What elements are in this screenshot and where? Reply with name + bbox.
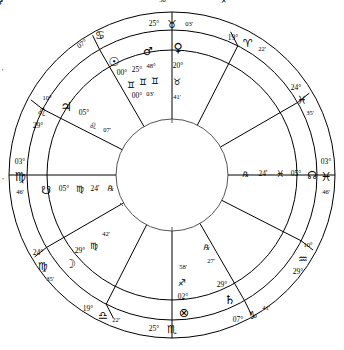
cusp-10-degree: 25°	[149, 20, 160, 28]
sagittarius-icon-fortune: ♐	[178, 279, 186, 288]
south-node-icon: ☋	[41, 185, 51, 196]
aquarius-icon: ♒	[298, 254, 308, 265]
virgo-icon-h2: ♍	[38, 261, 48, 272]
moon-degree: 29°	[75, 247, 86, 255]
aries-icon: ♈	[243, 38, 253, 49]
south-node-minute: 24'	[91, 185, 100, 193]
mars-degree: 00°	[132, 92, 143, 100]
north-node-minute: 24'	[259, 170, 268, 178]
mercury-degree: 00°	[117, 69, 128, 77]
pisces-icon-h8: ♓	[297, 95, 307, 106]
cusp-12-degree: 29°	[33, 122, 44, 130]
astrology-chart-wheel: 25° ♉ 03' 25° ♏ 03' 03° ♍ 46' 03° ♓ 46' …	[0, 0, 344, 350]
page-edge-artifact-top: '	[2, 68, 3, 77]
leo-icon-h12: ♌	[37, 107, 47, 118]
cusp-4-degree: 25°	[149, 325, 160, 333]
cusp-1-degree: 03°	[15, 158, 26, 166]
taurus-icon: ♉	[167, 19, 177, 30]
cusp-9-degree: 19°	[228, 34, 239, 42]
cusp-3-minute: 22'	[112, 317, 120, 324]
virgo-icon-snode: ♍	[76, 185, 84, 194]
libra-icon: ♎	[98, 310, 108, 321]
gemini-icon-mars: ♊	[151, 77, 159, 86]
cusp-9-minute: 22'	[258, 46, 266, 53]
saturn-icon: ♄	[224, 294, 235, 307]
gemini-icon-sun: ♊	[139, 78, 147, 87]
cusp-2-minute: 35'	[46, 276, 54, 283]
sagittarius-icon-saturn: ♐	[221, 0, 229, 5]
house-cusp-lines	[27, 30, 317, 320]
inner-aspect-circle	[116, 119, 228, 231]
cusp-line-3	[106, 225, 146, 304]
sun-minute: 48°	[146, 63, 155, 70]
virgo-icon-asc: ♍	[14, 171, 25, 184]
sun-icon: ☉	[108, 56, 119, 69]
cusp-line-9	[197, 46, 237, 125]
cusp-10-minute: 03'	[185, 21, 193, 28]
pisces-icon-dsc: ♓	[320, 171, 331, 184]
north-node-degree: 05°	[291, 170, 302, 178]
inner-circle-ticks	[120, 119, 172, 231]
saturn-degree: 29°	[217, 281, 228, 289]
venus-icon: ♀	[173, 42, 182, 55]
fortune-degree: 02°	[178, 293, 189, 301]
leo-icon-jupiter: ♌	[89, 122, 97, 131]
cusp-7-degree: 03°	[321, 158, 332, 166]
cancer-icon: ♋	[95, 30, 105, 41]
cusp-5-minute: 41'	[262, 305, 270, 312]
cusp-7-minute: 46'	[322, 189, 330, 196]
part-of-fortune-icon: ⊗	[179, 307, 189, 320]
cusp-5-degree: 07°	[233, 316, 244, 324]
mercury-icon: ☿	[0, 0, 3, 6]
cusp-line-6	[222, 200, 301, 240]
capricorn-icon: ♑	[248, 310, 258, 321]
cusp-3-degree: 19°	[83, 305, 94, 313]
saturn-retrograde-icon: ℞	[203, 244, 210, 252]
cusp-2-degree: 24°	[33, 249, 44, 257]
north-node-icon: ☊	[307, 170, 317, 181]
north-node-retrograde-icon: ℞	[242, 171, 249, 179]
page-edge-artifact-mid: ,	[2, 172, 4, 181]
cusp-8-minute: 35'	[306, 110, 314, 117]
south-node-retrograde-icon: ℞	[107, 185, 114, 193]
gemini-icon-mercury: ♊	[127, 81, 135, 90]
pisces-icon-nnode: ♓	[276, 170, 284, 179]
jupiter-icon: ♃	[60, 101, 71, 114]
south-node-degree: 05°	[59, 185, 70, 193]
cusp-12-minute: 10°	[42, 95, 51, 102]
venus-minute: 41'	[173, 94, 181, 101]
sun-degree: 25°	[132, 66, 143, 74]
cusp-1-minute: 46'	[16, 189, 24, 196]
scorpio-icon: ♏	[167, 324, 177, 335]
mars-minute: 30'	[159, 0, 167, 3]
mercury-minute: 03'	[146, 91, 154, 98]
virgo-icon-moon: ♍	[90, 242, 98, 251]
cusp-8-degree: 24°	[291, 84, 302, 92]
cusp-6-minute: 10°	[303, 242, 312, 249]
moon-minute: 42'	[102, 231, 110, 238]
fortune-minute: 58'	[179, 264, 187, 271]
jupiter-minute: 07'	[103, 127, 111, 134]
moon-icon: ☽	[64, 258, 75, 271]
jupiter-degree: 05°	[79, 109, 90, 117]
saturn-minute: 27'	[207, 258, 215, 265]
mars-icon: ♂	[143, 46, 153, 57]
cusp-6-degree: 29°	[293, 268, 304, 276]
venus-degree: 20°	[173, 62, 184, 70]
taurus-icon-venus: ♉	[173, 78, 181, 87]
